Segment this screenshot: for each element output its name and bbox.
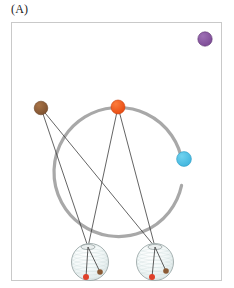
- orange-node: [111, 100, 125, 114]
- sphere-left: [72, 242, 109, 283]
- line-orange-to-right-sphere: [118, 107, 155, 247]
- purple-node: [198, 32, 212, 46]
- orbit-ring: [54, 108, 182, 237]
- figure-panel: (A): [0, 0, 234, 288]
- line-orange-to-left-sphere: [88, 107, 118, 247]
- sphere-left-red-marker: [83, 274, 89, 280]
- brown-node: [34, 101, 48, 115]
- line-brown-to-right-sphere: [41, 108, 155, 247]
- sphere-right-red-marker: [149, 274, 155, 280]
- sphere-left-brown-marker: [97, 269, 103, 275]
- sphere-right-brown-marker: [163, 268, 169, 274]
- sight-lines-group: [41, 107, 155, 247]
- scene-drawing: [0, 0, 234, 288]
- line-brown-to-left-sphere: [41, 108, 88, 247]
- cyan-node: [177, 152, 192, 167]
- spheres-group: [72, 242, 174, 283]
